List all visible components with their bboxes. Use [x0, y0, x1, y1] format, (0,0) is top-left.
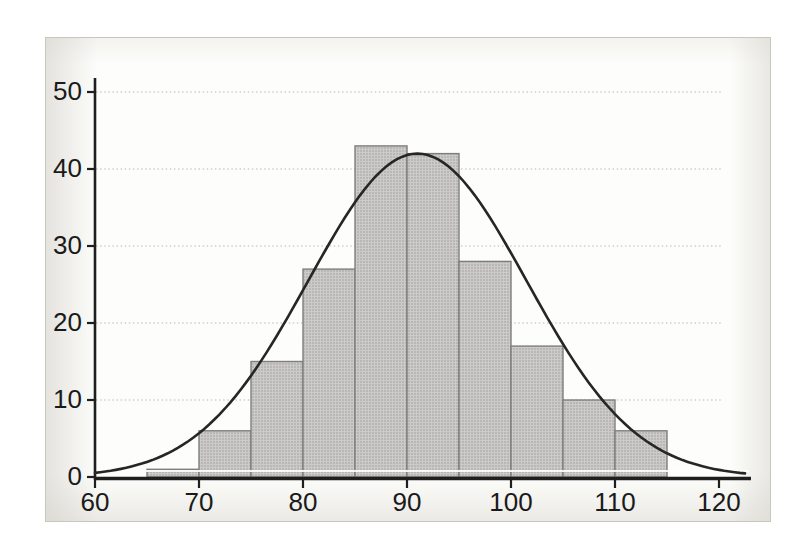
histogram-bar: [303, 269, 355, 477]
histogram-bar: [407, 154, 459, 477]
y-tick-label: 40: [53, 153, 82, 183]
histogram-bar: [563, 400, 615, 477]
x-tick-label: 80: [289, 487, 318, 517]
histogram-bar: [459, 261, 511, 477]
histogram-bar: [355, 146, 407, 477]
figure-page: 6070809010011012001020304050: [0, 0, 804, 551]
histogram-bar: [251, 362, 303, 478]
x-tick-label: 90: [393, 487, 422, 517]
y-tick-label: 0: [68, 461, 82, 491]
y-tick-label: 30: [53, 230, 82, 260]
x-tick-label: 110: [594, 487, 635, 517]
x-tick-label: 120: [697, 487, 740, 517]
y-tick-label: 20: [53, 307, 82, 337]
y-tick-label: 10: [53, 384, 82, 414]
x-tick-label: 60: [81, 487, 110, 517]
histogram-bar: [511, 346, 563, 477]
histogram-chart: 6070809010011012001020304050: [0, 0, 804, 551]
x-tick-label: 100: [489, 487, 532, 517]
x-tick-label: 70: [185, 487, 214, 517]
y-tick-label: 50: [53, 76, 82, 106]
